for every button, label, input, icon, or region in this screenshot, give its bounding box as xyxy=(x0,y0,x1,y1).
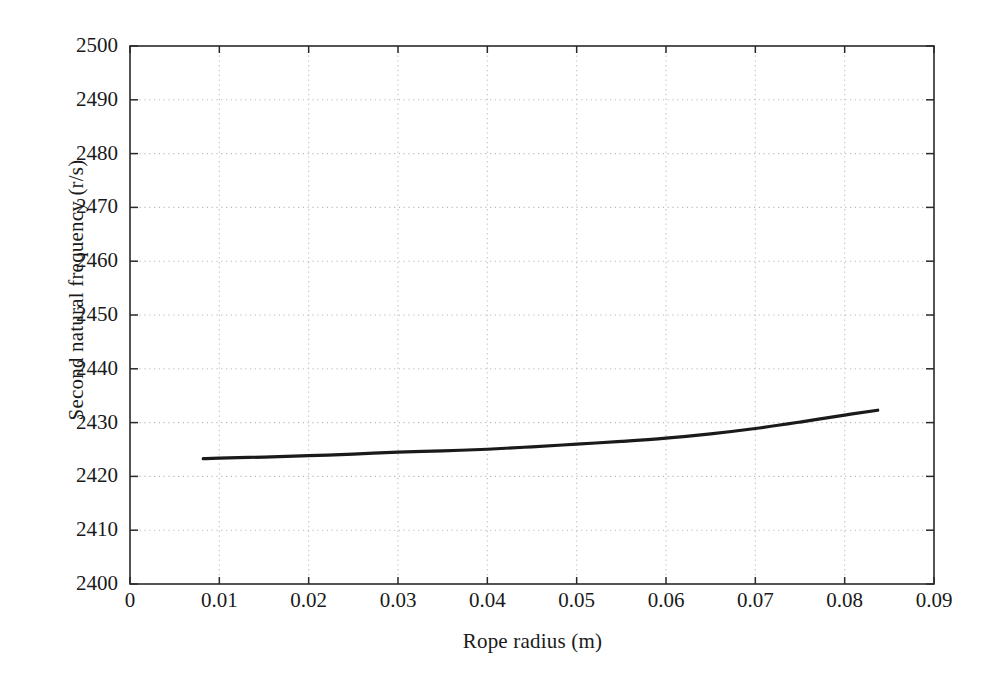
figure-root: Second natural frequency (r/s) Rope radi… xyxy=(0,0,987,679)
grid-lines xyxy=(130,46,934,584)
data-series-line xyxy=(203,410,877,458)
plot-area xyxy=(0,0,987,679)
